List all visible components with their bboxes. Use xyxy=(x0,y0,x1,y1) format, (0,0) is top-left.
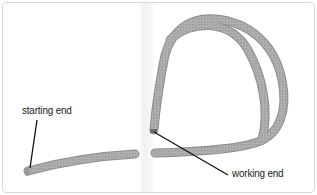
rope-crossing-shadow xyxy=(170,25,265,140)
starting-end-label: starting end xyxy=(22,104,72,116)
starting-end-tip xyxy=(25,168,30,176)
rope-crossing-loop xyxy=(170,25,265,140)
starting-end-leader-line xyxy=(30,120,37,168)
rope-illustration xyxy=(0,0,317,195)
working-end-label: working end xyxy=(232,167,283,179)
